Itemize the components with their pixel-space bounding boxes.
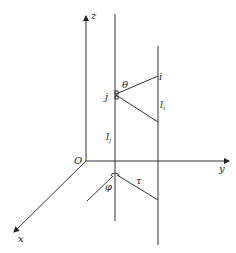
lj-label: lj — [106, 131, 111, 144]
point-j-label: j — [103, 91, 108, 102]
z-axis-label: z — [90, 10, 97, 21]
theta-label: θ — [122, 79, 128, 90]
y-axis-label: y — [218, 163, 225, 174]
point-i-label: i — [159, 71, 162, 82]
right-angle-mark-lower — [115, 96, 118, 99]
li-label: li — [160, 99, 165, 111]
phi-label: φ — [105, 181, 112, 192]
x-axis — [14, 161, 86, 232]
origin-label: O — [74, 155, 82, 166]
right-angle-mark-upper — [115, 91, 118, 94]
segment-j-lower — [116, 95, 158, 122]
coordinate-diagram: z y x O i j θ φ τ li lj — [0, 0, 236, 253]
x-axis-label: x — [18, 233, 24, 244]
tau-label: τ — [136, 175, 142, 186]
